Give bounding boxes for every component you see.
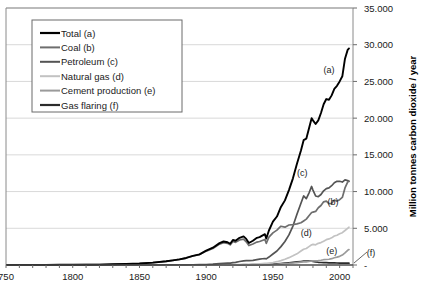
y-axis-tick-label: 30.000 (364, 39, 393, 50)
x-axis-tick-label: 1850 (129, 271, 150, 282)
series-line-cement (7, 250, 349, 265)
x-axis-tick-label: 1800 (62, 271, 83, 282)
annotation-b: (b) (327, 197, 338, 207)
co2-emissions-chart: 75018001850190019502000-5.00010.00015.00… (0, 0, 423, 288)
y-axis-tick-label: 20.000 (364, 113, 393, 124)
legend-label-5: Gas flaring (f) (61, 100, 119, 111)
y-axis-tick-label: - (364, 260, 367, 271)
annotation-a: (a) (323, 65, 334, 75)
y-axis-tick-label: 5.000 (364, 223, 388, 234)
legend-label-3: Natural gas (d) (61, 71, 124, 82)
chart-plot-area: 75018001850190019502000-5.00010.00015.00… (0, 0, 423, 288)
legend-label-2: Petroleum (c) (61, 56, 118, 67)
y-axis-title: Million tonnes carbon dioxide / year (407, 55, 418, 217)
annotation-d: (d) (301, 228, 312, 238)
legend-label-1: Coal (b) (61, 42, 95, 53)
x-axis-tick-label: 1900 (196, 271, 217, 282)
y-axis-tick-label: 35.000 (364, 3, 393, 14)
x-axis-tick-label: 2000 (329, 271, 350, 282)
legend-label-4: Cement production (e) (61, 85, 156, 96)
y-axis-tick-label: 10.000 (364, 186, 393, 197)
x-axis-tick-label: 750 (0, 271, 14, 282)
annotation-e: (e) (326, 246, 337, 256)
x-axis-tick-label: 1950 (262, 271, 283, 282)
y-axis: -5.00010.00015.00020.00025.00030.00035.0… (353, 3, 393, 271)
annotation-c: (c) (297, 168, 308, 178)
y-axis-tick-label: 15.000 (364, 149, 393, 160)
y-axis-tick-label: 25.000 (364, 76, 393, 87)
annotation-f: (f) (367, 248, 376, 258)
series-line-petroleum (7, 180, 349, 265)
chart-legend: Total (a)Coal (b)Petroleum (c)Natural ga… (32, 20, 182, 112)
x-axis: 75018001850190019502000 (0, 265, 353, 282)
legend-label-0: Total (a) (61, 28, 95, 39)
